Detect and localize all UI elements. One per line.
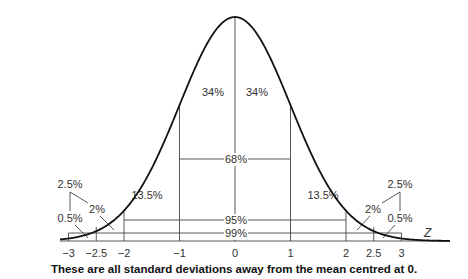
- region-label-5: 2%: [365, 203, 381, 215]
- region-label-7: 0.5%: [387, 212, 412, 224]
- span-label-68pct: 68%: [225, 153, 247, 165]
- region-label-4: 2%: [89, 203, 105, 215]
- x-tick-label-3: −1: [173, 247, 186, 259]
- x-tick-label-7: 2.5: [366, 247, 381, 259]
- region-label-8: 2.5%: [57, 178, 82, 190]
- leader-right-2-5-to-2: [382, 192, 400, 203]
- region-label-6: 0.5%: [57, 212, 82, 224]
- region-label-9: 2.5%: [387, 178, 412, 190]
- normal-distribution-diagram: 68%95%99%34%34%13.5%13.5%2%2%0.5%0.5%2.5…: [0, 0, 468, 279]
- region-label-0: 34%: [202, 86, 224, 98]
- x-tick-label-1: −2.5: [85, 247, 107, 259]
- span-label-99pct: 99%: [225, 227, 247, 239]
- leader-left-2-5-to-2: [70, 192, 88, 203]
- x-tick-label-8: 3: [398, 247, 404, 259]
- span-label-95pct: 95%: [225, 214, 247, 226]
- region-label-1: 34%: [246, 86, 268, 98]
- x-tick-label-2: −2: [118, 247, 131, 259]
- caption: These are all standard deviations away f…: [51, 263, 417, 275]
- x-tick-label-6: 2: [343, 247, 349, 259]
- x-tick-label-4: 0: [232, 247, 238, 259]
- normal-curve: [60, 17, 450, 241]
- z-axis-label: Z: [423, 226, 432, 240]
- x-tick-label-0: −3: [62, 247, 75, 259]
- x-tick-label-5: 1: [287, 247, 293, 259]
